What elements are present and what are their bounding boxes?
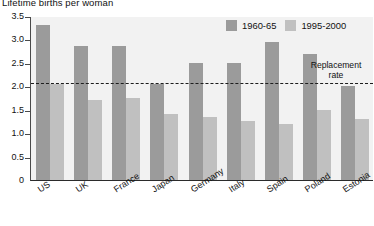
- legend-item-1960-65: 1960-65: [226, 20, 276, 31]
- legend-swatch-icon-1960-65: [226, 20, 237, 31]
- bar-germany-1960-65: [189, 63, 203, 180]
- bar-france-1995-2000: [126, 98, 140, 180]
- chart-title: Lifetime births per woman: [2, 0, 113, 8]
- replacement-rate-label: Replacementrate: [301, 60, 371, 80]
- bar-spain-1995-2000: [279, 124, 293, 180]
- bar-italy-1995-2000: [241, 121, 255, 180]
- replacement-rate-label-line1: Replacement: [301, 60, 371, 70]
- replacement-rate-line: [31, 83, 373, 84]
- y-axis-tick-label: 1.5: [0, 106, 24, 115]
- legend-label-1995-2000: 1995-2000: [301, 20, 346, 31]
- bar-spain-1960-65: [265, 42, 279, 180]
- bar-japan-1995-2000: [164, 114, 178, 180]
- legend-label-1960-65: 1960-65: [242, 20, 276, 31]
- legend-item-1995-2000: 1995-2000: [285, 20, 346, 31]
- chart-container: Lifetime births per woman 00.51.01.52.02…: [0, 0, 374, 226]
- y-axis-tick-label: 0.5: [0, 153, 24, 162]
- bar-uk-1995-2000: [88, 100, 102, 180]
- bar-us-1995-2000: [50, 84, 64, 180]
- x-axis-label-uk: UK: [74, 179, 90, 194]
- bar-japan-1960-65: [150, 84, 164, 180]
- y-axis-tick-label: 0: [0, 176, 24, 185]
- bar-us-1960-65: [36, 25, 50, 180]
- bar-estonia-1960-65: [341, 86, 355, 180]
- y-axis-tick-label: 3.5: [0, 12, 24, 21]
- x-axis-label-us: US: [36, 179, 52, 194]
- legend-swatch-icon-1995-2000: [285, 20, 296, 31]
- y-axis-tick-label: 2.0: [0, 82, 24, 91]
- chart-legend: 1960-65 1995-2000: [226, 20, 346, 31]
- replacement-rate-label-line2: rate: [301, 70, 371, 80]
- bar-france-1960-65: [112, 46, 126, 180]
- plot-inner: Replacementrate: [31, 17, 373, 180]
- y-axis-tick-label: 3.0: [0, 35, 24, 44]
- bar-italy-1960-65: [227, 63, 241, 180]
- y-axis-tick-label: 2.5: [0, 59, 24, 68]
- bar-uk-1960-65: [74, 46, 88, 180]
- plot-area: Replacementrate: [30, 17, 373, 181]
- y-axis-tick-label: 1.0: [0, 129, 24, 138]
- bar-poland-1995-2000: [317, 110, 331, 180]
